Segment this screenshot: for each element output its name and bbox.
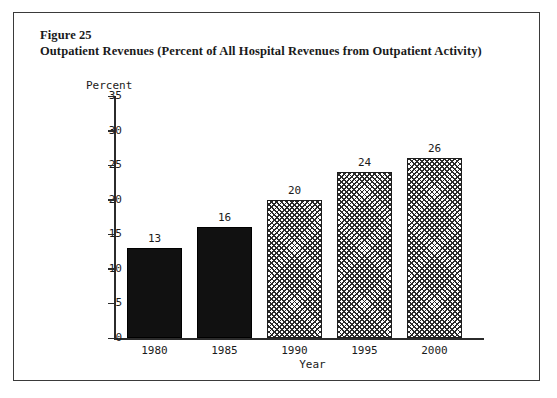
bar-value-label: 16	[197, 212, 252, 224]
y-tick: 10	[74, 263, 122, 275]
y-tick-label: 5	[115, 297, 122, 309]
x-tick-label: 1985	[197, 344, 252, 357]
bar-value-label: 26	[407, 143, 462, 155]
x-tick-label: 1995	[337, 344, 392, 357]
y-tick-mark	[108, 234, 114, 236]
y-tick: 15	[74, 228, 122, 240]
x-axis-title-wrap: Year	[14, 358, 541, 371]
y-tick-mark	[108, 130, 114, 132]
y-tick-mark	[108, 199, 114, 201]
y-tick-mark	[108, 338, 114, 340]
y-tick: 30	[74, 125, 122, 137]
y-tick: 25	[74, 159, 122, 171]
figure-frame: Figure 25 Outpatient Revenues (Percent o…	[13, 12, 540, 381]
y-tick-mark	[108, 268, 114, 270]
bar-value-label: 24	[337, 157, 392, 169]
y-tick: 35	[74, 90, 122, 102]
bar-1985	[197, 227, 252, 338]
bar-value-label: 20	[267, 185, 322, 197]
y-tick-mark	[108, 165, 114, 167]
bar-1990	[267, 200, 322, 338]
y-tick-mark	[108, 96, 114, 98]
bar-chart-plot: Percent 05101520253035 1316202426 198019…	[14, 13, 541, 382]
bar-value-label: 13	[127, 233, 182, 245]
x-tick-label: 1990	[267, 344, 322, 357]
bar-1995	[337, 172, 392, 338]
x-axis-title: Year	[299, 358, 326, 371]
y-tick-label: 0	[115, 332, 122, 344]
y-tick: 20	[74, 194, 122, 206]
y-tick: 5	[74, 297, 122, 309]
bar-2000	[407, 158, 462, 338]
bar-1980	[127, 248, 182, 338]
y-tick-mark	[108, 303, 114, 305]
x-tick-label: 1980	[127, 344, 182, 357]
x-tick-label: 2000	[407, 344, 462, 357]
y-tick: 0	[74, 332, 122, 344]
x-axis-line	[114, 338, 484, 340]
